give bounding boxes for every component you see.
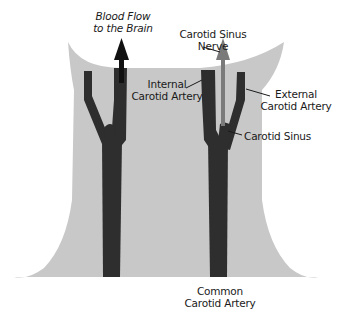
common-label-line1: Common	[180, 285, 260, 297]
blood-flow-label: Blood Flow to the Brain	[78, 10, 168, 34]
carotid-diagram: Blood Flow to the Brain Carotid Sinus Ne…	[0, 0, 339, 316]
internal-label-line1: Internal	[128, 78, 206, 90]
blood-flow-label-line1: Blood Flow	[78, 10, 168, 22]
external-label-line1: External	[254, 88, 338, 100]
external-label-line2: Carotid Artery	[254, 100, 338, 112]
nerve-label-line2: Nerve	[168, 40, 258, 52]
external-carotid-label: External Carotid Artery	[254, 88, 338, 112]
common-label-line2: Carotid Artery	[180, 297, 260, 309]
carotid-sinus-label: Carotid Sinus	[244, 130, 311, 142]
internal-label-line2: Carotid Artery	[128, 90, 206, 102]
common-carotid-label: Common Carotid Artery	[180, 285, 260, 309]
carotid-sinus-nerve-label: Carotid Sinus Nerve	[168, 28, 258, 52]
internal-carotid-label: Internal Carotid Artery	[128, 78, 206, 102]
nerve-label-line1: Carotid Sinus	[168, 28, 258, 40]
blood-flow-label-line2: to the Brain	[78, 22, 168, 34]
sinus-label-line1: Carotid Sinus	[244, 130, 311, 142]
